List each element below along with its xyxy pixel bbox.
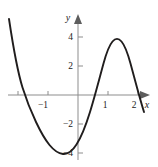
y-tick-label-minus2: −2 [63,119,73,129]
x-tick-label-2: 2 [132,100,137,110]
x-axis-label: x [144,99,150,110]
chart-figure: −1 1 2 4 2 −2 −4 y x [0,0,158,167]
y-axis-label: y [65,12,71,23]
y-tick-label-2: 2 [68,61,73,71]
y-tick-label-4: 4 [68,32,73,42]
x-tick-label-1: 1 [103,100,108,110]
quartic-curve [9,19,144,154]
y-tick-label-minus4: −4 [63,148,73,158]
quartic-plot-svg: −1 1 2 4 2 −2 −4 y x [0,0,158,167]
y-axis-arrow-icon [74,14,82,24]
x-tick-label-minus1: −1 [38,100,48,110]
x-axis-arrow-icon [140,91,150,99]
